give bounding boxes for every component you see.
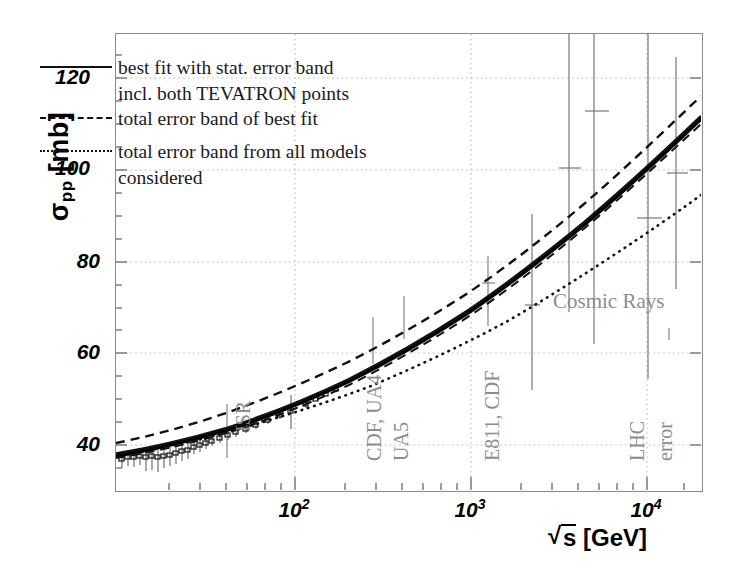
legend-label-all-models-line1: total error band from all models — [118, 139, 460, 164]
x-tick-mantissa: 10 — [278, 498, 301, 521]
legend-entry-all-models: total error band from all models — [40, 139, 460, 164]
annotation-ua5: UA5 — [390, 422, 412, 461]
y-tick-label-80: 80 — [40, 249, 100, 273]
y-tick-label-60: 60 — [40, 340, 100, 364]
y-tick-label-40: 40 — [40, 432, 100, 456]
legend-entry-total-error: total error band of best fit — [40, 106, 460, 131]
x-axis-ticks — [169, 477, 684, 490]
legend: best fit with stat. error band incl. bot… — [40, 55, 460, 190]
legend-label-total-error: total error band of best fit — [118, 106, 460, 131]
collider-data-points — [227, 256, 495, 458]
cosmic-ray-data-points — [525, 34, 688, 390]
legend-label-best-fit-line1: best fit with stat. error band — [118, 55, 460, 80]
y-axis-sigma: σ — [44, 202, 74, 221]
x-tick-label-1e3: 103 — [435, 496, 505, 522]
annotation-e811-cdf: E811, CDF — [481, 371, 503, 461]
curve-all-models-lower — [116, 195, 701, 456]
annotation-lhc-error: error — [654, 422, 676, 461]
x-tick-label-1e4: 104 — [611, 496, 681, 522]
x-tick-mantissa: 10 — [454, 498, 477, 521]
x-tick-label-1e2: 102 — [259, 496, 329, 522]
annotation-isr: ISR — [232, 400, 254, 432]
legend-label-best-fit-line2: incl. both TEVATRON points — [40, 81, 460, 106]
plot-annotations: ISR CDF, UA4 UA5 E811, CDF LHC error Cos… — [232, 289, 676, 461]
sqrt-symbol: √s — [560, 524, 576, 552]
x-tick-exponent: 2 — [302, 496, 310, 512]
annotation-cdf-ua4: CDF, UA4 — [363, 375, 385, 461]
x-tick-exponent: 4 — [654, 496, 662, 512]
annotation-cosmic-rays: Cosmic Rays — [553, 289, 664, 313]
legend-label-all-models-line2: considered — [40, 165, 460, 190]
x-axis-title: √s [GeV] — [560, 524, 647, 552]
x-axis-var: s — [563, 524, 576, 551]
legend-key-solid-line — [40, 55, 118, 80]
x-tick-exponent: 3 — [478, 496, 486, 512]
annotation-lhc: LHC — [626, 421, 648, 461]
x-axis-unit: [GeV] — [583, 524, 647, 551]
legend-entry-best-fit: best fit with stat. error band — [40, 55, 460, 80]
legend-key-dashed-line — [40, 106, 118, 131]
x-tick-mantissa: 10 — [630, 498, 653, 521]
legend-key-dotted-line — [40, 139, 118, 164]
figure-root: σpp [mb] 40 60 80 100 120 102 103 104 √s… — [0, 0, 744, 584]
